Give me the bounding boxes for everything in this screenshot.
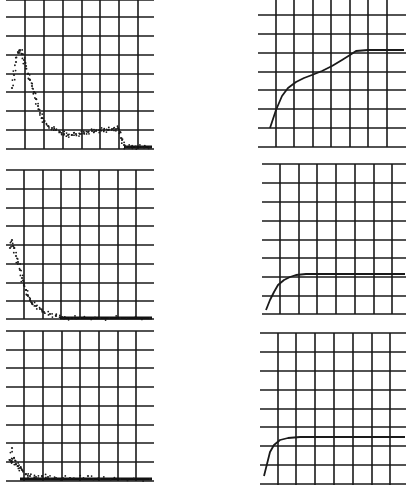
- line-series: [270, 50, 404, 128]
- plot-panel-top-left: [6, 0, 154, 150]
- plot-panel-middle-right: [262, 164, 406, 314]
- plot-panel-middle-left: [6, 170, 154, 321]
- grid: [6, 331, 154, 481]
- plot-canvas: [0, 0, 406, 486]
- plot-panel-top-right: [258, 0, 406, 147]
- grid: [260, 333, 406, 485]
- grid: [258, 0, 406, 147]
- plot-panel-bottom-left: [6, 331, 154, 482]
- grid: [262, 164, 406, 314]
- scatter-series: [11, 49, 151, 150]
- plot-panel-bottom-right: [260, 333, 406, 485]
